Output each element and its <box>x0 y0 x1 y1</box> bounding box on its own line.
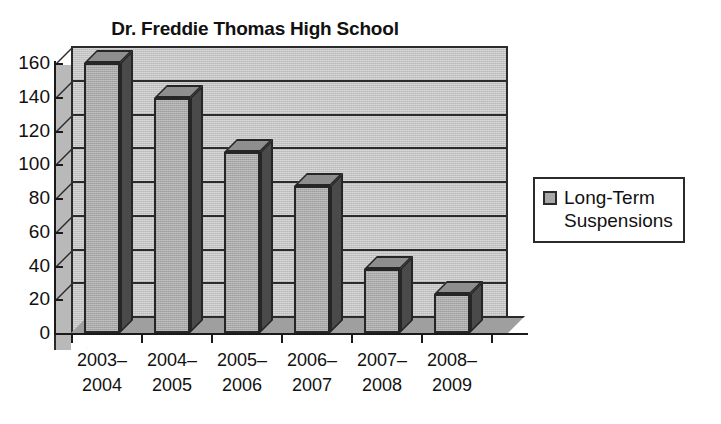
bar-chart: Dr. Freddie Thomas High School 160140120… <box>0 0 721 424</box>
bar[interactable] <box>224 152 260 333</box>
bar-side-face <box>190 85 203 333</box>
y-axis-tick-label: 20 <box>4 289 50 308</box>
y-axis-tick <box>54 299 63 301</box>
x-axis-line <box>54 333 528 335</box>
bar-texture <box>296 188 328 331</box>
bar[interactable] <box>364 269 400 333</box>
y-axis-tick <box>54 198 63 200</box>
x-axis-tick <box>71 333 73 343</box>
legend-label-line: Suspensions <box>564 209 673 232</box>
y-axis-tick <box>54 232 63 234</box>
x-axis-tick <box>281 333 283 343</box>
gridline <box>71 215 508 217</box>
y-axis-tick <box>54 63 63 65</box>
y-axis-tick <box>54 164 63 166</box>
bar[interactable] <box>294 186 330 333</box>
bar-texture <box>226 154 258 331</box>
bar-side-face <box>260 139 273 333</box>
y-axis-tick <box>54 131 63 133</box>
bar-front-face <box>364 269 400 333</box>
bar-side-face <box>120 50 133 333</box>
bar-front-face <box>224 152 260 333</box>
y-axis-tick-label: 40 <box>4 256 50 275</box>
y-axis-tick-label: 120 <box>4 121 50 140</box>
gridline <box>71 249 508 251</box>
chart-legend: Long-TermSuspensions <box>533 177 685 243</box>
x-axis-tick <box>491 333 493 343</box>
bar-front-face <box>84 63 120 333</box>
gridline <box>71 114 508 116</box>
bar-texture <box>156 100 188 331</box>
legend-label: Long-TermSuspensions <box>564 186 673 232</box>
x-axis-tick <box>351 333 353 343</box>
bar-front-face <box>434 294 470 333</box>
y-axis-tick <box>54 333 63 335</box>
y-axis-tick-label: 100 <box>4 154 50 173</box>
y-axis-tick <box>54 266 63 268</box>
bar[interactable] <box>434 294 470 333</box>
gridline <box>71 80 508 82</box>
gridline <box>71 46 508 48</box>
x-axis-tick <box>421 333 423 343</box>
bar-texture <box>366 271 398 331</box>
bar-side-face <box>400 256 413 333</box>
bar[interactable] <box>84 63 120 333</box>
legend-label-line: Long-Term <box>564 186 673 209</box>
x-axis-tick <box>141 333 143 343</box>
bar-texture <box>86 65 118 331</box>
y-axis-tick-label: 140 <box>4 87 50 106</box>
bar-texture <box>436 296 468 331</box>
x-axis-tick <box>211 333 213 343</box>
y-axis-tick-label: 0 <box>4 323 50 342</box>
y-axis-tick-label: 60 <box>4 222 50 241</box>
bar-front-face <box>294 186 330 333</box>
bar-front-face <box>154 98 190 333</box>
x-axis-category-line: 2009 <box>410 373 494 398</box>
bar-side-face <box>330 173 343 333</box>
legend-color-swatch <box>543 191 557 205</box>
y-axis-tick <box>54 97 63 99</box>
x-axis-category-line: 2008– <box>410 348 494 373</box>
plot-left-wall <box>54 63 71 350</box>
y-axis-tick-label: 160 <box>4 53 50 72</box>
gridline <box>71 181 508 183</box>
bar[interactable] <box>154 98 190 333</box>
x-axis-category-label: 2008–2009 <box>410 348 494 398</box>
y-axis-labels: 160140120100806040200 <box>0 0 50 424</box>
gridline <box>71 147 508 149</box>
y-axis-tick-label: 80 <box>4 188 50 207</box>
